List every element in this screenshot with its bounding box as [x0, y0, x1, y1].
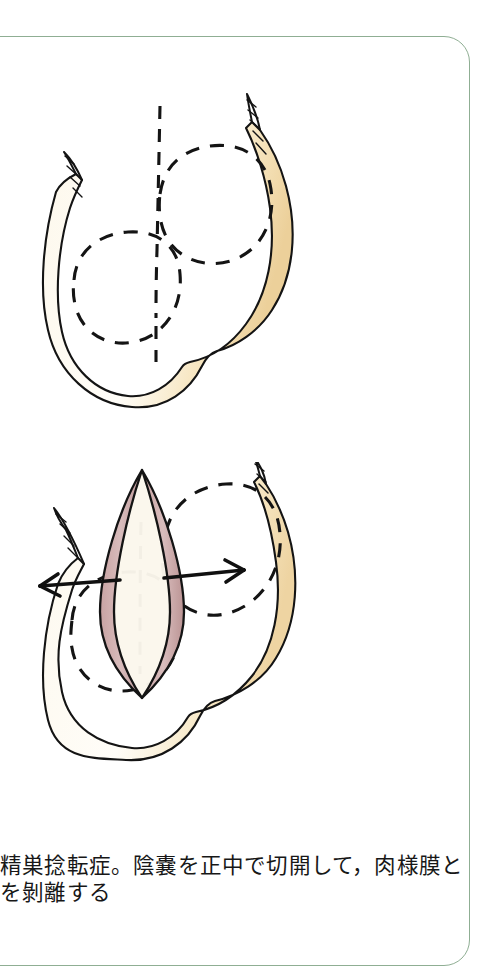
figure-scrotum-intact-with-planned-incision — [14, 74, 334, 419]
figure-caption: 精巣捻転症。陰嚢を正中で切開して，肉様膜と を剝離する — [0, 852, 490, 906]
dashed-midline-incision-marker — [156, 106, 160, 318]
figure-scrotum-opened-median-incision — [14, 462, 344, 767]
scrotum-outline — [43, 122, 293, 407]
caption-line-2: を剝離する — [0, 879, 490, 906]
dashed-left-testis-outline — [73, 232, 180, 343]
dashed-right-testis-outline — [159, 145, 272, 263]
caption-line-1: 精巣捻転症。陰嚢を正中で切開して，肉様膜と — [0, 852, 490, 879]
